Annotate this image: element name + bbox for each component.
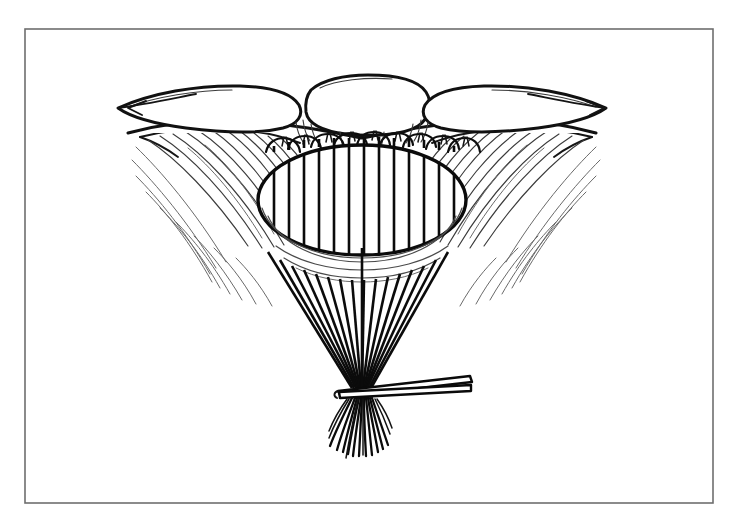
illustration-canvas	[0, 0, 732, 521]
center-lobe	[306, 75, 430, 135]
figure-root: Anatomic line illustration: three rounde…	[0, 0, 732, 521]
